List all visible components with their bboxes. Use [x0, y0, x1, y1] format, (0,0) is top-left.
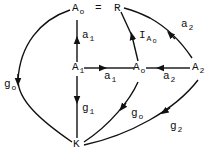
node-A2: A2 [192, 62, 204, 73]
label-g0-left: go [4, 79, 16, 90]
label-a1-horizontal: a1 [104, 71, 116, 82]
node-A1: A1 [72, 62, 84, 73]
label-a2-curve: a2 [181, 19, 193, 30]
node-A0-mid: Ao [133, 62, 145, 73]
label-identity: IAo [139, 30, 157, 41]
equals-sign: = [95, 3, 102, 14]
node-K: K [73, 139, 80, 150]
label-g0-inner: go [131, 108, 143, 119]
label-g2: g2 [170, 121, 182, 132]
node-A0-top: Ao [72, 3, 84, 14]
edge-g0-left [18, 10, 72, 142]
label-g1: g1 [82, 103, 94, 114]
edge-a2-curve [124, 8, 192, 58]
label-a2-horizontal: a2 [163, 71, 175, 82]
node-R: R [114, 3, 121, 14]
label-a1-vertical: a1 [82, 30, 94, 41]
edge-identity [132, 36, 138, 61]
